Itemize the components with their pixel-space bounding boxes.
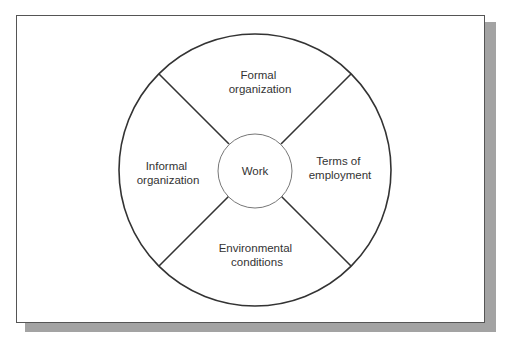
segment-right-line-1: Terms of bbox=[316, 155, 361, 167]
segment-label-left: Informal organization bbox=[137, 160, 200, 186]
segment-bottom-line-1: Environmental bbox=[219, 242, 293, 254]
segment-left-line-1: Informal bbox=[146, 160, 188, 172]
segment-label-top: Formal organization bbox=[229, 69, 292, 95]
work-diagram: Work Formal organization Terms of employ… bbox=[0, 0, 508, 343]
segment-label-right: Terms of employment bbox=[309, 155, 372, 181]
segment-left-line-2: organization bbox=[137, 174, 200, 186]
divider-bottom-left bbox=[159, 196, 229, 266]
segment-right-line-2: employment bbox=[309, 169, 372, 181]
figure-caption bbox=[0, 338, 508, 343]
segment-label-bottom: Environmental conditions bbox=[219, 242, 296, 268]
segment-top-line-2: organization bbox=[229, 83, 292, 95]
divider-bottom-right bbox=[281, 196, 351, 266]
segment-top-line-1: Formal bbox=[241, 69, 277, 81]
center-label: Work bbox=[242, 165, 269, 177]
divider-top-right bbox=[281, 74, 351, 144]
segment-bottom-line-2: conditions bbox=[231, 256, 283, 268]
divider-top-left bbox=[159, 74, 229, 144]
